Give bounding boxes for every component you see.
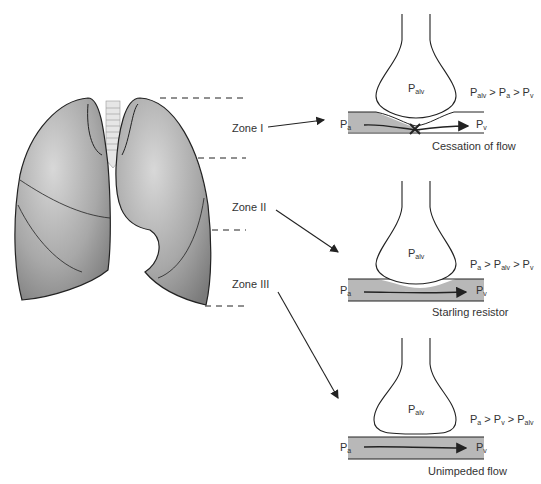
zone-1-label: Zone I [232, 122, 263, 134]
right-lung [15, 98, 110, 300]
zone-2-condition: Pa > Palv > Pv [470, 258, 534, 271]
zone-1-caption: Cessation of flow [432, 140, 516, 152]
lung-zones-diagram: Zone I Zone II Zone III Palv Pa Pv Palv … [0, 0, 541, 484]
zone-3-diagram: Palv Pa Pv Pa > Pv > Palv Unimpeded flow [340, 338, 534, 477]
zone-3-condition: Pa > Pv > Palv [470, 413, 534, 426]
zone-2-pv: Pv [476, 284, 487, 297]
zone-1-condition: Palv > Pa > Pv [470, 86, 534, 99]
zone-3-pv: Pv [476, 441, 487, 454]
zone-arrows [268, 120, 338, 398]
zone-1-pv: Pv [476, 118, 487, 131]
zone-3-label: Zone III [232, 278, 269, 290]
zone-3-alveolus [374, 338, 456, 434]
zone-1-alveolus [376, 14, 456, 118]
zone-1-diagram: Palv Pa Pv Palv > Pa > Pv Cessation of f… [340, 14, 534, 152]
zone-2-label: Zone II [232, 201, 266, 213]
zone-2-caption: Starling resistor [432, 306, 509, 318]
lungs-illustration [15, 98, 211, 305]
zone-3-caption: Unimpeded flow [428, 465, 507, 477]
zone-2-diagram: Palv Pa Pv Pa > Palv > Pv Starling resis… [340, 181, 534, 318]
zone-2-alveolus [376, 181, 456, 284]
